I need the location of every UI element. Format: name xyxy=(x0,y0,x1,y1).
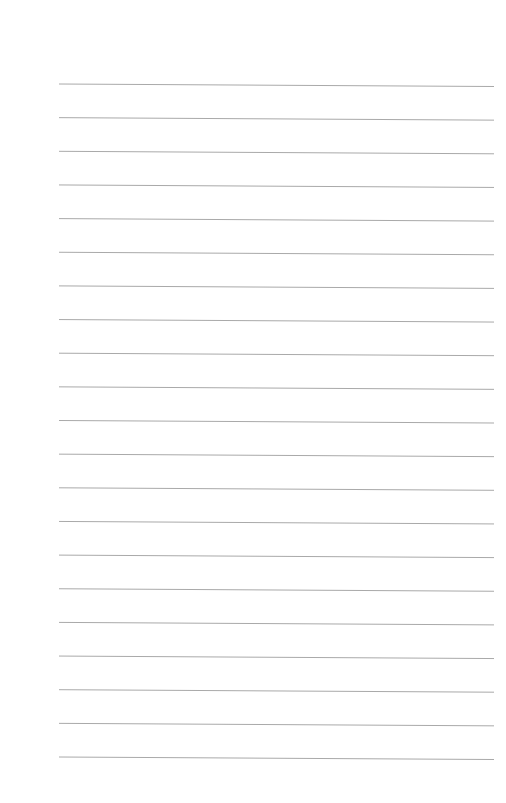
ruled-line xyxy=(59,387,494,390)
ruled-line xyxy=(59,690,494,693)
ruled-line xyxy=(59,320,494,323)
ruled-line xyxy=(59,252,494,255)
ruled-line xyxy=(59,656,494,659)
ruled-line xyxy=(59,286,494,289)
ruled-line xyxy=(59,622,494,625)
ruled-line xyxy=(59,757,494,760)
ruled-lines xyxy=(0,0,506,803)
ruled-line xyxy=(59,521,494,524)
ruled-line xyxy=(59,219,494,222)
ruled-line xyxy=(59,151,494,154)
ruled-line xyxy=(59,723,494,726)
ruled-line xyxy=(59,118,494,121)
ruled-line xyxy=(59,84,494,87)
lined-paper-page xyxy=(0,0,506,803)
ruled-line xyxy=(59,353,494,356)
ruled-line xyxy=(59,185,494,188)
ruled-line xyxy=(59,454,494,457)
ruled-line xyxy=(59,421,494,424)
ruled-line xyxy=(59,488,494,491)
ruled-line xyxy=(59,589,494,592)
ruled-line xyxy=(59,555,494,558)
